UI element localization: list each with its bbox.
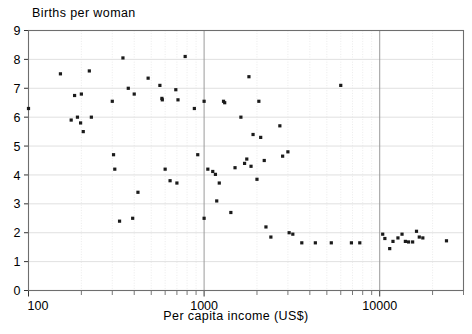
data-point: [269, 235, 272, 238]
data-point: [90, 116, 93, 119]
data-point: [82, 130, 85, 133]
data-point: [229, 211, 232, 214]
data-point: [233, 166, 236, 169]
data-point: [206, 168, 209, 171]
data-point: [113, 168, 116, 171]
data-point: [278, 124, 281, 127]
data-point: [388, 247, 391, 250]
y-tick-label: 5: [14, 140, 21, 154]
data-point: [168, 179, 171, 182]
data-point: [215, 199, 218, 202]
y-tick-label: 6: [14, 111, 21, 125]
data-point: [251, 133, 254, 136]
data-point: [88, 69, 91, 72]
data-point: [391, 240, 394, 243]
data-point: [255, 178, 258, 181]
data-point: [118, 220, 121, 223]
data-point: [79, 121, 82, 124]
data-point: [174, 88, 177, 91]
data-point: [407, 240, 410, 243]
y-tick-label: 2: [14, 226, 21, 240]
data-point: [314, 241, 317, 244]
data-point: [164, 168, 167, 171]
data-point: [70, 118, 73, 121]
data-point: [445, 239, 448, 242]
data-point: [259, 136, 262, 139]
data-point: [247, 75, 250, 78]
y-tick-label: 0: [14, 284, 21, 298]
data-point: [223, 101, 226, 104]
data-point: [127, 87, 130, 90]
data-point: [288, 231, 291, 234]
data-point: [249, 165, 252, 168]
data-point: [76, 116, 79, 119]
data-point: [121, 56, 124, 59]
y-tick-label: 9: [14, 24, 21, 38]
data-point: [396, 236, 399, 239]
y-tick-label: 3: [14, 197, 21, 211]
data-point: [218, 181, 221, 184]
y-tick-label: 1: [14, 255, 21, 269]
data-point: [112, 153, 115, 156]
data-point: [263, 159, 266, 162]
data-point-group: [27, 55, 448, 250]
data-point: [358, 241, 361, 244]
data-point: [291, 233, 294, 236]
data-point: [133, 92, 136, 95]
data-point: [161, 98, 164, 101]
data-point: [286, 150, 289, 153]
data-point: [339, 84, 342, 87]
data-point: [73, 94, 76, 97]
x-axis-title: Per capita income (US$): [0, 309, 472, 323]
data-point: [411, 240, 414, 243]
data-point: [184, 55, 187, 58]
y-tick-label: 7: [14, 82, 21, 96]
data-point: [350, 241, 353, 244]
data-point: [175, 181, 178, 184]
data-point: [264, 225, 267, 228]
data-point: [281, 155, 284, 158]
data-point: [214, 173, 217, 176]
data-point: [400, 233, 403, 236]
data-point: [330, 241, 333, 244]
data-point: [203, 217, 206, 220]
data-point: [404, 240, 407, 243]
data-point: [176, 98, 179, 101]
data-point: [131, 217, 134, 220]
data-point: [158, 84, 161, 87]
data-point: [80, 92, 83, 95]
data-point: [415, 230, 418, 233]
data-point: [418, 235, 421, 238]
data-point: [136, 191, 139, 194]
data-point: [203, 100, 206, 103]
data-point: [257, 100, 260, 103]
data-point: [245, 157, 248, 160]
data-point: [300, 241, 303, 244]
chart-figure: Births per woman 0123456789100100010000 …: [0, 0, 472, 334]
y-tick-label: 4: [14, 169, 21, 183]
data-point: [421, 236, 424, 239]
data-point: [381, 233, 384, 236]
data-point: [111, 100, 114, 103]
data-point: [196, 153, 199, 156]
data-point: [147, 77, 150, 80]
data-point: [243, 162, 246, 165]
data-point: [383, 237, 386, 240]
data-point: [239, 116, 242, 119]
y-tick-label: 8: [14, 53, 21, 67]
data-point: [211, 170, 214, 173]
data-point: [193, 107, 196, 110]
data-point: [59, 72, 62, 75]
scatter-plot-canvas: 0123456789100100010000: [0, 0, 472, 334]
data-point: [27, 107, 30, 110]
